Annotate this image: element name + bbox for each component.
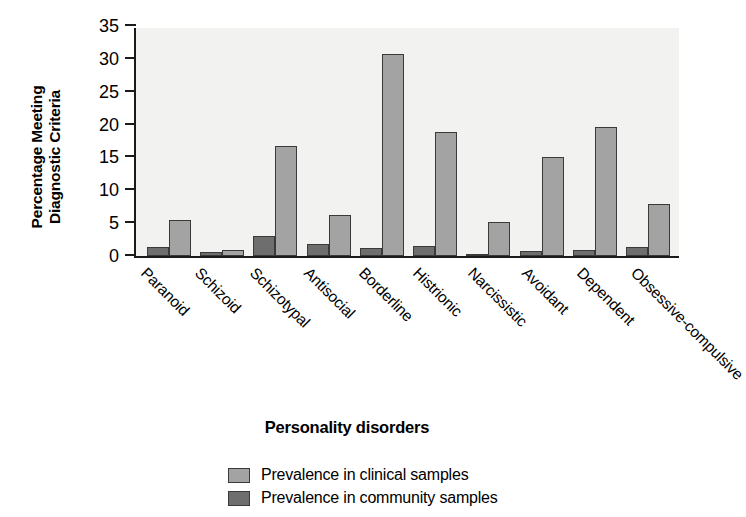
y-axis-tick-label: 35	[99, 17, 119, 35]
bar-clinical[interactable]	[382, 54, 404, 256]
bar-group	[515, 28, 568, 256]
bar-community[interactable]	[200, 252, 222, 256]
bar-clinical[interactable]	[435, 132, 457, 256]
y-axis-tick: 5	[125, 221, 136, 223]
x-axis-title: Personality disorders	[0, 418, 694, 437]
legend-swatch-community	[228, 491, 250, 506]
chart-legend: Prevalence in clinical samplesPrevalence…	[228, 466, 498, 507]
y-axis-tick: 20	[125, 123, 136, 125]
bar-group	[408, 28, 461, 256]
x-axis-tick-label: Borderline	[355, 264, 416, 325]
bar-groups	[136, 28, 679, 256]
y-axis-tick-label: 25	[99, 83, 119, 101]
bar-group	[568, 28, 621, 256]
bar-clinical[interactable]	[222, 250, 244, 256]
y-axis-tick-label: 0	[109, 247, 119, 265]
legend-item[interactable]: Prevalence in community samples	[228, 489, 498, 507]
bar-clinical[interactable]	[169, 220, 191, 256]
bar-group	[462, 28, 515, 256]
y-axis-title-line-1: Percentage Meeting	[28, 86, 46, 229]
y-axis-tick-label: 5	[109, 214, 119, 232]
bar-community[interactable]	[520, 251, 542, 256]
bar-clinical[interactable]	[488, 222, 510, 256]
legend-swatch-clinical	[228, 468, 250, 483]
legend-label: Prevalence in community samples	[261, 489, 498, 507]
bar-clinical[interactable]	[542, 157, 564, 256]
x-axis-tick-label: Schizoid	[192, 264, 245, 317]
bar-community[interactable]	[413, 246, 435, 257]
bar-community[interactable]	[253, 236, 275, 256]
bar-clinical[interactable]	[329, 215, 351, 256]
x-axis-tick-label: Histrionic	[410, 264, 466, 320]
y-axis-title: Percentage Meeting Diagnostic Criteria	[26, 32, 66, 282]
bar-group	[622, 28, 675, 256]
y-axis-tick: 10	[125, 188, 136, 190]
bar-group	[195, 28, 248, 256]
bar-clinical[interactable]	[595, 127, 617, 256]
y-axis-tick-label: 30	[99, 50, 119, 68]
bar-group	[142, 28, 195, 256]
y-axis-title-line-2: Diagnostic Criteria	[46, 90, 64, 224]
bar-community[interactable]	[147, 247, 169, 256]
bar-clinical[interactable]	[648, 204, 670, 256]
bar-group	[355, 28, 408, 256]
legend-item[interactable]: Prevalence in clinical samples	[228, 466, 498, 484]
bar-community[interactable]	[360, 248, 382, 256]
legend-label: Prevalence in clinical samples	[261, 466, 468, 484]
bar-community[interactable]	[307, 244, 329, 256]
y-axis-tick: 35	[125, 24, 136, 26]
x-axis-tick-label: Avoidant	[519, 264, 573, 318]
y-axis-tick-label: 10	[99, 181, 119, 199]
bar-group	[302, 28, 355, 256]
y-axis-tick: 0	[125, 254, 136, 256]
y-axis-tick-label: 15	[99, 148, 119, 166]
y-axis-tick: 15	[125, 155, 136, 157]
bar-clinical[interactable]	[275, 146, 297, 256]
bar-community[interactable]	[626, 247, 648, 256]
bar-group	[249, 28, 302, 256]
plot-area: 05101520253035	[134, 28, 679, 258]
y-axis-tick: 25	[125, 90, 136, 92]
y-axis-tick: 30	[125, 57, 136, 59]
bar-community[interactable]	[573, 250, 595, 256]
y-axis-tick-label: 20	[99, 116, 119, 134]
x-axis-tick-label: Obsessive-compulsive	[628, 264, 746, 384]
x-axis-tick-labels: ParanoidSchizoidSchizotypalAntisocialBor…	[134, 258, 679, 398]
bar-community[interactable]	[466, 254, 488, 256]
x-axis-tick-label: Paranoid	[137, 264, 192, 319]
